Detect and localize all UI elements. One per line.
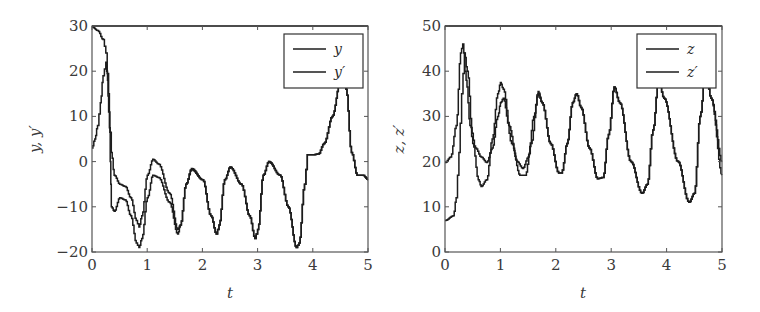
y-tick-label: 20	[69, 62, 88, 80]
x-tick-label: 2	[198, 256, 208, 274]
x-tick-label: 5	[717, 256, 727, 274]
y-tick-label: 20	[422, 153, 441, 171]
legend-label-y: y	[333, 41, 343, 57]
chart-y-yprime: 0123453020100−10−20 y, y′ t y y′	[26, 17, 373, 302]
legend-left: y y′	[284, 34, 363, 88]
legend-right: z z′	[637, 34, 716, 88]
y-tick-label: 0	[78, 153, 88, 171]
legend-box-left	[284, 34, 363, 88]
x-tick-label: 4	[308, 256, 318, 274]
y-tick-label: −20	[56, 243, 88, 261]
chart-z-zprime: 01234550403020100 z, z′ t z z′	[390, 17, 727, 302]
x-tick-label: 2	[551, 256, 561, 274]
x-tick-label: 5	[363, 256, 373, 274]
y-axis-label-left: y, y′	[26, 124, 44, 153]
x-tick-label: 4	[662, 256, 672, 274]
x-tick-label: 0	[440, 256, 450, 274]
legend-label-z: z	[686, 41, 695, 57]
y-tick-label: −10	[56, 198, 88, 216]
y-tick-label: 0	[431, 243, 441, 261]
figure-canvas: 0123453020100−10−20 y, y′ t y y′ 0123455…	[0, 0, 760, 312]
y-tick-label: 30	[69, 17, 88, 35]
x-tick-label: 0	[87, 256, 97, 274]
x-tick-label: 3	[253, 256, 263, 274]
y-tick-label: 50	[422, 17, 441, 35]
y-tick-label: 10	[422, 198, 441, 216]
x-axis-label-right: t	[580, 284, 587, 302]
legend-label-zprime: z′	[686, 64, 698, 80]
y-tick-label: 10	[69, 107, 88, 125]
legend-label-yprime: y′	[333, 64, 346, 80]
y-tick-label: 40	[422, 62, 441, 80]
x-tick-label: 1	[142, 256, 152, 274]
x-axis-label-left: t	[227, 284, 234, 302]
legend-box-right	[637, 34, 716, 88]
y-tick-label: 30	[422, 107, 441, 125]
x-tick-label: 3	[606, 256, 616, 274]
x-tick-label: 1	[496, 256, 506, 274]
y-axis-label-right: z, z′	[390, 124, 408, 154]
